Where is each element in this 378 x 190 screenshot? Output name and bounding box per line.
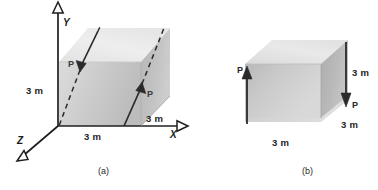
axis-x-arrowhead-icon <box>177 121 188 131</box>
axis-z-label: Z <box>17 136 23 146</box>
dim-height-b-label: 3 m <box>352 68 369 78</box>
caption-part-b: (b) <box>302 167 313 176</box>
force-p-left-b-label: P <box>237 66 243 75</box>
axis-y-label: Y <box>63 18 70 28</box>
dim-width-b-label: 3 m <box>272 138 289 148</box>
axis-z <box>17 126 58 161</box>
force-p-left-a-label: P <box>68 60 74 69</box>
axis-x-label: X <box>170 130 177 140</box>
dim-depth-a-label: 3 m <box>146 114 163 124</box>
dim-depth-b-label: 3 m <box>341 120 358 130</box>
caption-part-a: (a) <box>98 167 109 176</box>
dim-width-a-label: 3 m <box>84 132 101 142</box>
cube-b-front-face <box>245 64 321 118</box>
axis-y-arrowhead-icon <box>53 2 63 13</box>
force-p-right-b-label: P <box>352 101 358 110</box>
force-p-right-a-label: P <box>147 90 153 99</box>
cube-b <box>245 40 348 122</box>
cube-a <box>59 28 170 126</box>
figure-vector-layer <box>0 0 378 190</box>
dim-height-a-label: 3 m <box>26 86 43 96</box>
axis-z-line <box>24 126 58 155</box>
figure-container: Y X Z 3 m 3 m 3 m P P (a) P P 3 m 3 m 3 … <box>0 0 378 190</box>
